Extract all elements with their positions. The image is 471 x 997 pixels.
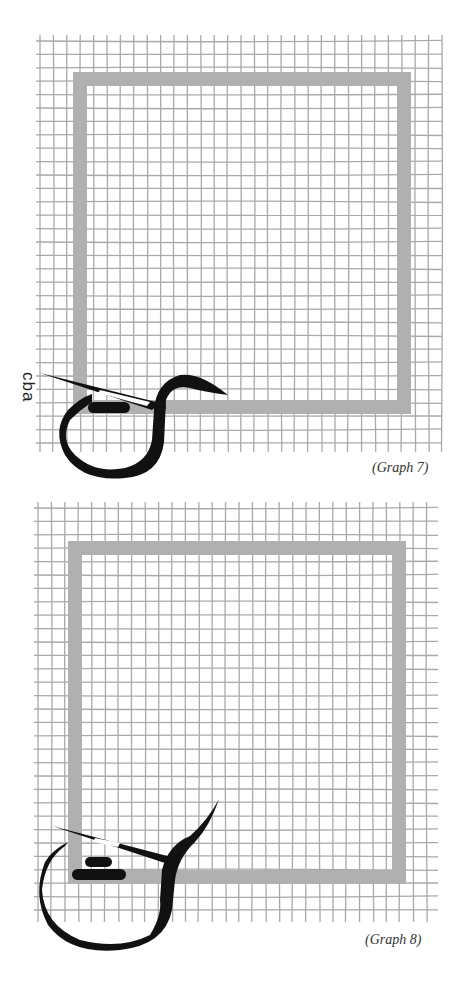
pen-highlight: [93, 838, 120, 847]
graph-8: (Graph 8): [0, 0, 471, 997]
dash-mark-lower: [72, 869, 126, 880]
graph-8-canvas: [0, 0, 471, 997]
dot-mark: [167, 853, 179, 865]
dash-mark-upper: [85, 857, 112, 867]
graph-8-caption: (Graph 8): [365, 932, 421, 948]
square-frame: [75, 548, 399, 877]
